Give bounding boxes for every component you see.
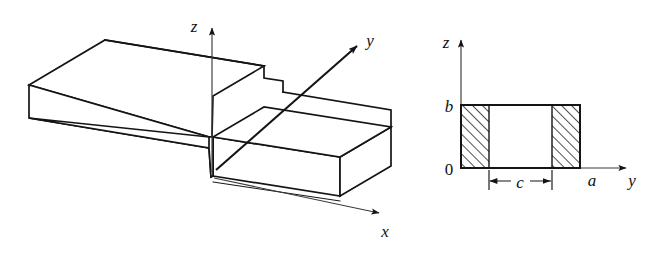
figure-container: z y x z y b [0, 0, 658, 262]
back-edge-notch [264, 66, 283, 92]
inner-width-label-c: c [516, 173, 524, 192]
width-label-a: a [588, 171, 597, 190]
isometric-slab-group: z y x [29, 17, 391, 241]
cross-section-group: z y b 0 a c [442, 33, 637, 192]
z-axis-label: z [190, 17, 198, 36]
height-label-b: b [445, 97, 454, 116]
left-hatched-band [461, 105, 489, 168]
origin-label: 0 [445, 160, 454, 179]
x-axis-label: x [380, 222, 389, 241]
engineering-figure: z y x z y b [0, 0, 658, 262]
right-hatched-band [552, 105, 580, 168]
y-axis-label: y [364, 31, 374, 50]
cross-section-z-axis-label: z [442, 33, 450, 52]
cross-section-y-axis-label: y [626, 171, 636, 190]
